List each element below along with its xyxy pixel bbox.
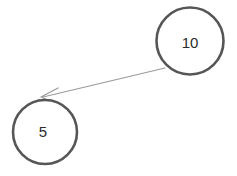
- node-10-label: 10: [182, 34, 199, 51]
- graph-svg: 10 5: [0, 0, 237, 176]
- node-10[interactable]: 10: [157, 8, 224, 75]
- node-5-label: 5: [39, 123, 47, 140]
- diagram-canvas: 10 5: [0, 0, 237, 176]
- edge-line: [43, 68, 165, 97]
- node-5[interactable]: 5: [13, 100, 77, 164]
- edge-10-to-5[interactable]: [41, 68, 165, 104]
